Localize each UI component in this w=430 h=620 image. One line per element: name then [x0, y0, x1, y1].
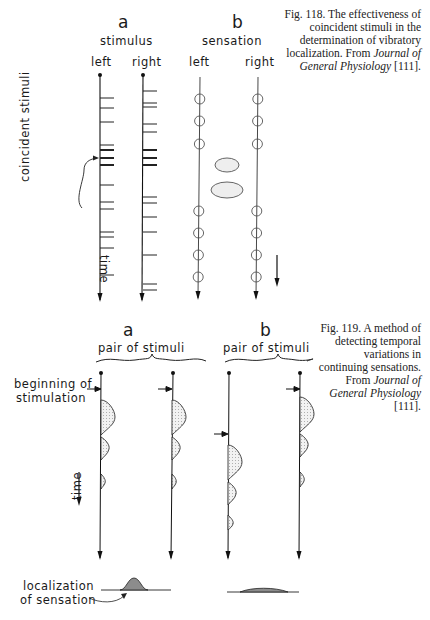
- fig119-a-right-line: [169, 371, 176, 560]
- fig119-start-arrows: [87, 387, 300, 437]
- fig118-caption-ref: [111].: [394, 60, 421, 72]
- fig119-panel-a-letter: a: [123, 320, 133, 340]
- localization-flat-b: [240, 588, 288, 592]
- fig119-caption-ref: [111].: [394, 400, 421, 412]
- fig119-caption: Fig. 119. A method of detecting temporal…: [313, 322, 421, 413]
- localization-label-line1: localization: [23, 579, 94, 593]
- fig118-stimulus-left-line: [98, 73, 103, 302]
- beginning-label-line1: beginning of: [14, 377, 92, 391]
- fig118-central-ellipses: [211, 158, 243, 198]
- fig118-caption-number: Fig. 118.: [285, 8, 326, 20]
- fig119-caption-number: Fig. 119.: [320, 322, 361, 334]
- fig118-sensation-left-line: [196, 77, 201, 300]
- fig118-sensation-right-line: [254, 77, 259, 300]
- fig119-panel-b-title: pair of stimuli: [223, 341, 310, 355]
- fig119-panel-b-letter: b: [260, 320, 271, 340]
- beginning-label-line2: stimulation: [16, 391, 86, 405]
- fig119-caption-journal: Journal of General Physiology: [329, 374, 421, 399]
- fused-sensation-ellipse: [215, 158, 239, 172]
- fig118-diagram: [0, 0, 430, 620]
- fig119-panel-a-title: pair of stimuli: [98, 341, 185, 355]
- fig118-left-ticks: [100, 98, 114, 275]
- fig119-a-left-line: [98, 371, 104, 560]
- fig119-time-label: time: [70, 472, 84, 500]
- fused-sensation-ellipse: [211, 182, 243, 198]
- fig118-caption: Fig. 118. The effectiveness of coinciden…: [270, 8, 421, 73]
- fig119-sensation-waves: [101, 397, 314, 530]
- localization-peak-a: [120, 578, 148, 590]
- fig118-right-ticks: [143, 91, 157, 290]
- localization-label-line2: of sensation: [20, 593, 96, 607]
